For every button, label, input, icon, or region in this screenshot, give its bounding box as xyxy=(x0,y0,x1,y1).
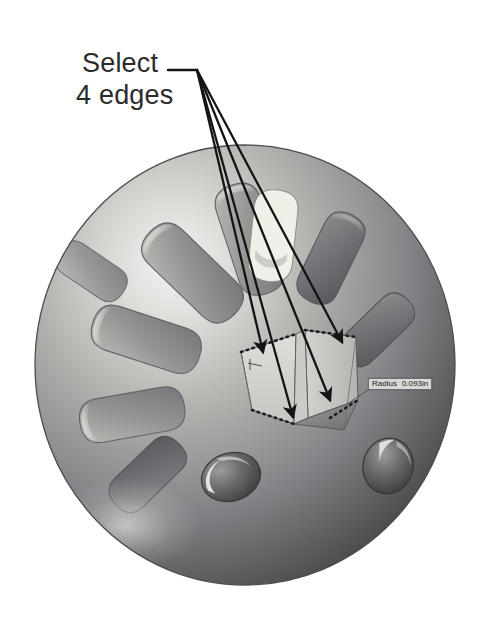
annotation-label-line2: 4 edges xyxy=(76,80,173,110)
annotation-label-line1: Select xyxy=(82,48,158,78)
screenshot-root: Select 4 edges Radius0.093in xyxy=(0,0,489,622)
tooltip-value: 0.093in xyxy=(402,379,428,388)
boss-face-center[interactable] xyxy=(294,330,308,424)
radius-tooltip[interactable]: Radius0.093in xyxy=(368,378,432,390)
cad-viewport[interactable] xyxy=(0,0,489,622)
sphere-gloss xyxy=(60,425,280,565)
tooltip-label: Radius xyxy=(372,379,397,388)
